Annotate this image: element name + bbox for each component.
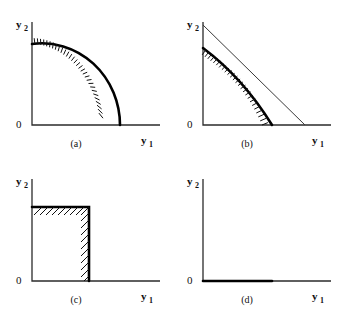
panel-a-y1-label: y [141,134,147,146]
panel-a-origin-label: 0 [16,118,22,130]
axes-c [32,179,160,281]
panel-c: y 2 0 y 1 (c) [0,157,171,314]
panel-d-origin-label: 0 [187,274,193,286]
frontier-rect-c [32,207,89,281]
panel-c-origin-label: 0 [16,274,22,286]
panel-a-plot: y 2 0 y 1 (a) [0,0,171,157]
panel-c-caption: (c) [70,294,81,306]
panel-b-caption: (b) [241,138,253,150]
panel-c-y2-label: y [16,175,22,187]
panel-a-y2-label: y [16,18,22,30]
panel-a: y 2 0 y 1 (a) [0,0,171,157]
axes-d [203,179,331,281]
panel-a-y2-subscript: 2 [24,24,28,33]
panel-d-y1-subscript: 1 [320,296,324,305]
hatch-group-b [202,50,268,125]
panel-d-y2-label: y [187,175,193,187]
axes-a [32,22,160,125]
panel-a-caption: (a) [70,138,81,150]
panel-b-y2-subscript: 2 [195,24,199,33]
panel-d-plot: y 2 0 y 1 (d) [171,157,342,314]
panel-b-plot: y 2 0 y 1 (b) [171,0,342,157]
panel-d-caption: (d) [241,294,253,306]
frontier-curve-b [203,48,272,125]
panel-c-y1-subscript: 1 [149,296,153,305]
frontier-curve-a [32,43,120,125]
panel-d-y1-label: y [312,290,318,302]
panel-c-y1-label: y [141,290,147,302]
panel-b-y2-label: y [187,18,193,30]
hatch-group-a [34,38,103,118]
panel-d: y 2 0 y 1 (d) [171,157,342,314]
panel-b-y1-label: y [312,134,318,146]
tangent-line-b [203,25,305,125]
panel-c-y2-subscript: 2 [24,181,28,190]
panel-a-y1-subscript: 1 [149,140,153,149]
panel-d-y2-subscript: 2 [195,181,199,190]
panel-b-y1-subscript: 1 [320,140,324,149]
panel-b-origin-label: 0 [187,118,193,130]
axes-b [203,22,331,125]
panel-b: y 2 0 y 1 (b) [171,0,342,157]
panel-c-plot: y 2 0 y 1 (c) [0,157,171,314]
figure-root: y 2 0 y 1 (a) [0,0,342,314]
